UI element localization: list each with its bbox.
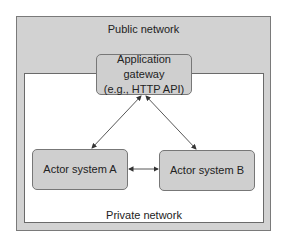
connection-arrows [0, 0, 283, 250]
arrow-gateway-actor-a [92, 96, 141, 148]
arrow-gateway-actor-b [146, 96, 196, 149]
